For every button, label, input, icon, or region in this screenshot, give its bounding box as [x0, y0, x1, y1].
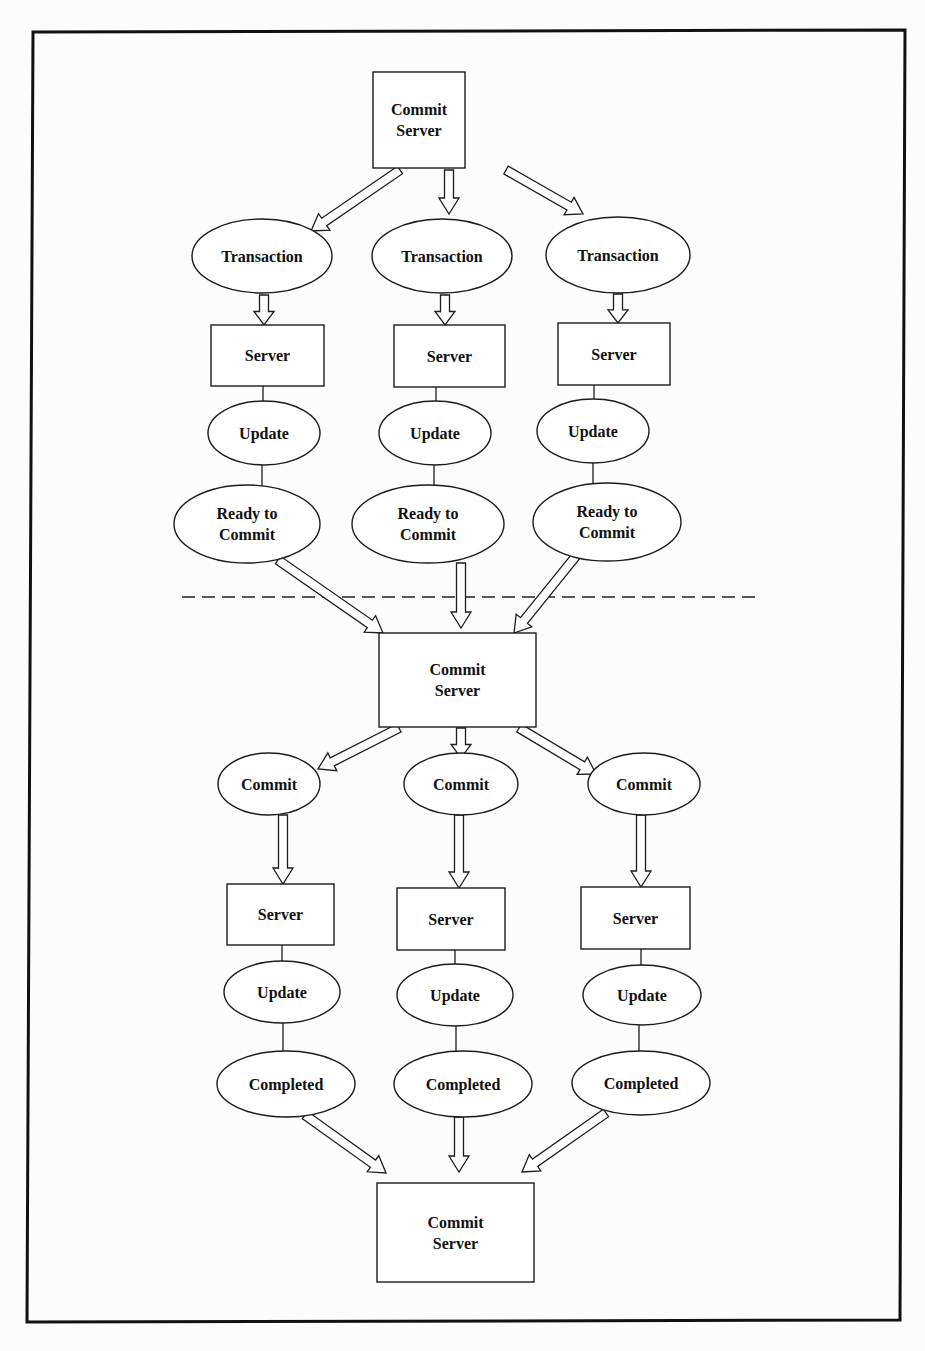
- node-label: Transaction: [221, 248, 303, 265]
- node-label: Commit: [428, 1214, 485, 1231]
- node-label: Ready to: [217, 505, 278, 523]
- arrow-icon-completed-2-to-commit-server-bottom: [449, 1117, 469, 1172]
- arrow-icon-ready-1-to-commit-server-mid: [275, 556, 383, 633]
- page: CommitServerTransactionTransactionTransa…: [0, 0, 925, 1351]
- node-server-p2-3: Server: [581, 887, 690, 949]
- box-shape: [377, 1183, 534, 1282]
- node-label: Commit: [433, 776, 490, 793]
- node-label: Server: [427, 348, 472, 365]
- node-completed-1: Completed: [217, 1051, 355, 1117]
- node-server-p2-1: Server: [227, 884, 334, 945]
- ellipse-shape: [174, 485, 320, 563]
- node-label: Server: [396, 122, 441, 139]
- node-transaction-1: Transaction: [192, 219, 332, 293]
- ellipse-shape: [352, 485, 504, 563]
- ellipse-shape: [533, 483, 681, 561]
- arrow-icon-ready-2-to-commit-server-mid: [451, 563, 471, 628]
- node-label: Commit: [579, 524, 636, 541]
- node-update-p2-2: Update: [397, 964, 513, 1026]
- node-commit-server-bottom: CommitServer: [377, 1183, 534, 1282]
- node-transaction-3: Transaction: [546, 217, 690, 293]
- nodes: CommitServerTransactionTransactionTransa…: [174, 72, 710, 1282]
- node-update-p2-3: Update: [583, 965, 701, 1025]
- box-shape: [379, 633, 536, 727]
- node-server-p1-1: Server: [211, 325, 324, 386]
- arrow-icon-ready-3-to-commit-server-mid: [514, 553, 580, 633]
- arrow-icon-completed-1-to-commit-server-bottom: [302, 1111, 386, 1173]
- arrow-icon-commit-server-top-to-transaction-3: [504, 166, 583, 215]
- arrow-icon-commit-2-to-server-p2-2: [449, 815, 469, 888]
- node-update-p1-1: Update: [208, 401, 320, 465]
- node-label: Update: [257, 984, 307, 1002]
- node-ready-3: Ready toCommit: [533, 483, 681, 561]
- node-label: Update: [410, 425, 460, 443]
- node-ready-1: Ready toCommit: [174, 485, 320, 563]
- arrow-icon-completed-3-to-commit-server-bottom: [522, 1109, 609, 1172]
- node-label: Update: [239, 425, 289, 443]
- node-label: Server: [591, 346, 636, 363]
- node-update-p1-2: Update: [379, 401, 491, 465]
- node-label: Server: [433, 1235, 478, 1252]
- node-commit-2: Commit: [404, 753, 518, 815]
- two-phase-commit-diagram: CommitServerTransactionTransactionTransa…: [0, 0, 925, 1351]
- node-label: Update: [430, 987, 480, 1005]
- node-completed-2: Completed: [394, 1051, 532, 1117]
- node-server-p1-2: Server: [394, 325, 505, 387]
- node-label: Update: [617, 987, 667, 1005]
- node-label: Completed: [249, 1076, 324, 1094]
- node-commit-3: Commit: [588, 753, 700, 815]
- node-label: Server: [258, 906, 303, 923]
- node-label: Commit: [430, 661, 487, 678]
- arrow-icon-transaction-1-to-server-p1-1: [254, 295, 274, 325]
- arrow-icon-commit-server-mid-to-commit-3: [517, 724, 596, 774]
- node-server-p1-3: Server: [558, 323, 670, 385]
- node-server-p2-2: Server: [397, 888, 505, 950]
- arrow-icon-transaction-2-to-server-p1-2: [435, 295, 455, 325]
- node-label: Transaction: [401, 248, 483, 265]
- node-label: Server: [245, 347, 290, 364]
- node-update-p1-3: Update: [537, 399, 649, 463]
- node-label: Ready to: [398, 505, 459, 523]
- node-label: Completed: [426, 1076, 501, 1094]
- node-completed-3: Completed: [572, 1051, 710, 1115]
- node-label: Commit: [219, 526, 276, 543]
- node-ready-2: Ready toCommit: [352, 485, 504, 563]
- node-update-p2-1: Update: [224, 961, 340, 1023]
- node-commit-server-mid: CommitServer: [379, 633, 536, 727]
- arrow-icon-commit-3-to-server-p2-3: [631, 815, 651, 887]
- node-label: Commit: [616, 776, 673, 793]
- box-shape: [373, 72, 465, 168]
- node-label: Transaction: [577, 247, 659, 264]
- arrow-icon-commit-server-top-to-transaction-1: [311, 166, 403, 231]
- node-label: Commit: [400, 526, 457, 543]
- node-label: Commit: [391, 101, 448, 118]
- node-label: Server: [613, 910, 658, 927]
- node-transaction-2: Transaction: [372, 219, 512, 293]
- arrow-icon-commit-server-mid-to-commit-1: [318, 724, 401, 771]
- arrow-icon-transaction-3-to-server-p1-3: [608, 294, 628, 323]
- arrow-icon-commit-server-top-to-transaction-2: [439, 170, 459, 214]
- node-label: Ready to: [577, 503, 638, 521]
- node-label: Server: [428, 911, 473, 928]
- node-label: Server: [435, 682, 480, 699]
- node-label: Completed: [604, 1075, 679, 1093]
- node-commit-server-top: CommitServer: [373, 72, 465, 168]
- node-label: Update: [568, 423, 618, 441]
- arrow-icon-commit-1-to-server-p2-1: [273, 815, 293, 884]
- node-commit-1: Commit: [218, 753, 320, 815]
- node-label: Commit: [241, 776, 298, 793]
